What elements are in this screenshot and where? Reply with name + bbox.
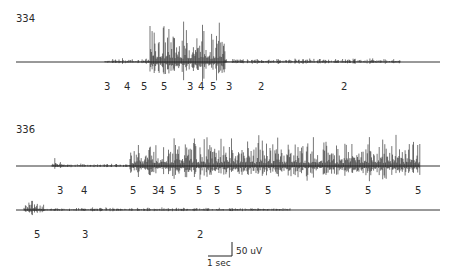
- scale-time-label: 1 sec: [207, 258, 231, 268]
- stage-label: 5: [265, 186, 271, 196]
- scale-bar-lines: [208, 242, 232, 256]
- trace-signal: [24, 201, 290, 215]
- trace-title-334: 334: [16, 13, 35, 24]
- scale-amplitude-label: 50 uV: [236, 246, 262, 256]
- stage-label: 5: [236, 186, 242, 196]
- stage-label: 2: [197, 230, 203, 240]
- stage-label: 34: [152, 186, 165, 196]
- stage-label: 5: [141, 82, 147, 92]
- stage-label: 5: [210, 82, 216, 92]
- stage-label: 3: [104, 82, 110, 92]
- stage-label: 3: [187, 82, 193, 92]
- stage-label: 5: [34, 230, 40, 240]
- stage-label: 2: [341, 82, 347, 92]
- stage-label: 5: [214, 186, 220, 196]
- stage-label: 3: [82, 230, 88, 240]
- eeg-traces: [0, 0, 453, 270]
- stage-label: 5: [325, 186, 331, 196]
- stage-label: 5: [161, 82, 167, 92]
- stage-label: 4: [124, 82, 130, 92]
- stage-label: 5: [130, 186, 136, 196]
- stage-label: 5: [170, 186, 176, 196]
- stage-label: 5: [415, 186, 421, 196]
- stage-label: 4: [81, 186, 87, 196]
- stage-label: 3: [226, 82, 232, 92]
- stage-label: 3: [57, 186, 63, 196]
- stage-label: 2: [258, 82, 264, 92]
- trace-title-336: 336: [16, 124, 35, 135]
- trace-signal: [52, 135, 420, 181]
- stage-label: 5: [196, 186, 202, 196]
- stage-label: 4: [198, 82, 204, 92]
- trace-signal: [105, 22, 400, 82]
- stage-label: 5: [365, 186, 371, 196]
